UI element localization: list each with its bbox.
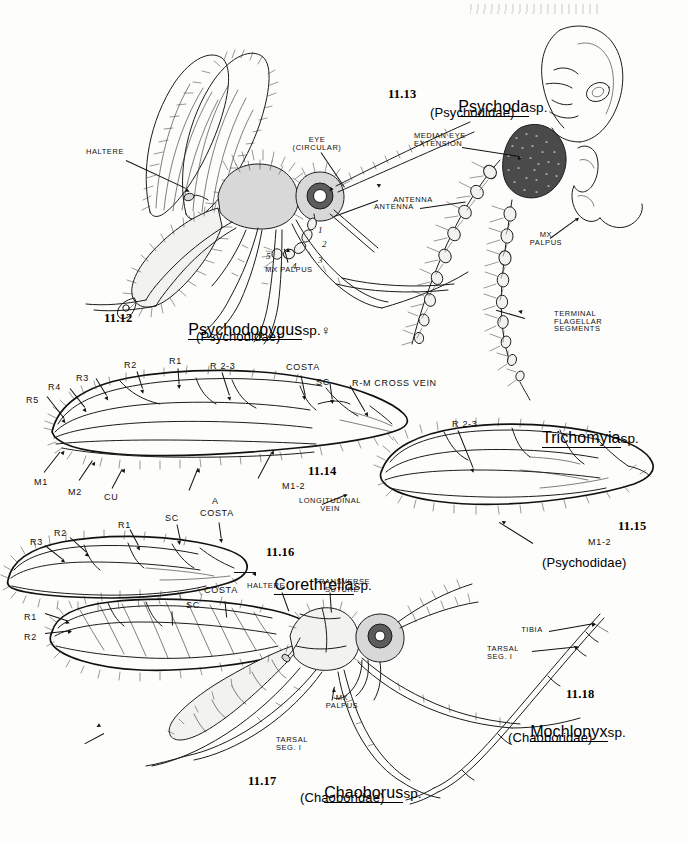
callout-longitudinal-vein: LONGITUDINAL VEIN <box>288 497 372 512</box>
vein-label-m1-2: M1-2 <box>282 482 305 491</box>
vein-label-r2-b: R2 <box>54 529 67 538</box>
callout-transverse-suture: TRANSVERSE SUTURE <box>300 578 384 593</box>
arrow-mx-palpus-3 <box>332 688 336 692</box>
vein-label-sc: SC <box>316 378 330 387</box>
genus-name-trichomyia: Trichomyia <box>542 429 621 448</box>
callout-tarsal-seg-1-b: TARSAL SEG. I <box>487 645 537 660</box>
sp-label-11-18: sp. <box>608 725 626 740</box>
figure-number-11-12: 11.12 <box>104 312 132 325</box>
antenna-beads-left <box>413 163 499 345</box>
palpus-segment-1: 1 <box>318 226 323 235</box>
vein-label-costa-b: COSTA <box>200 509 234 518</box>
figure-number-11-17: 11.17 <box>248 775 276 788</box>
palpus-segment-2: 2 <box>322 240 327 249</box>
vein-label-r2-c: R2 <box>24 633 37 642</box>
family-name-11-18: (Chaoboridae) <box>508 731 592 744</box>
callout-mx-palpus-3: MX PALPUS <box>318 694 366 709</box>
sp-label-11-15: sp. <box>621 431 639 446</box>
callout-haltere: HALTERE <box>74 148 136 156</box>
arrow-costa <box>302 396 307 401</box>
illustration-plate: HALTERE EYE (CIRCULAR) ANTENNA MX PALPUS… <box>0 0 689 842</box>
vein-label-rm-cross-vein: R-M CROSS VEIN <box>352 379 437 388</box>
callout-eye-circular: EYE (CIRCULAR) <box>282 136 352 151</box>
callout-antenna-2: ANTENNA <box>374 203 426 211</box>
vein-label-r1-b: R1 <box>118 521 131 530</box>
callout-median-eye-extension: MEDIAN EYE EXTENSION <box>414 132 504 147</box>
vein-label-a: A <box>212 497 219 506</box>
figure-number-11-13: 11.13 <box>388 88 416 101</box>
arrow-sc <box>330 400 335 405</box>
arrow-tarsal-2 <box>575 646 579 650</box>
vein-label-r2: R2 <box>124 361 137 370</box>
vein-label-r2-3-b: R 2-3 <box>452 420 478 429</box>
callout-tarsal-seg-1: TARSAL SEG. I <box>276 736 336 751</box>
sex-symbol-11-12: ♀ <box>321 323 331 338</box>
callout-haltere-2: HALTERE <box>242 582 290 590</box>
figure-number-11-16: 11.16 <box>266 546 294 559</box>
sp-label-11-13: sp. <box>529 100 547 115</box>
vein-label-cu: CU <box>104 493 118 502</box>
callout-tibia: TIBIA <box>512 626 552 634</box>
arrow-r1 <box>177 385 181 389</box>
vein-label-r1-c: R1 <box>24 613 37 622</box>
callout-terminal-flagellar-segments: TERMINAL FLAGELLAR SEGMENTS <box>554 310 634 333</box>
family-name-11-12: (Psychodidae) <box>196 330 280 343</box>
vein-label-r3-b: R3 <box>30 538 43 547</box>
family-name-11-13: (Psychodidae) <box>430 106 514 119</box>
arrow-costa-b <box>219 539 224 544</box>
figure-title-11-15: Trichomyiasp. <box>524 414 639 463</box>
arrow-sc-b <box>177 541 182 546</box>
vein-label-m2: M2 <box>68 488 82 497</box>
vein-label-m1-2-b: M1-2 <box>588 538 611 547</box>
figure-11-17-artwork <box>45 580 580 798</box>
palpus-segment-4: 4 <box>292 262 297 271</box>
vein-label-r3: R3 <box>76 374 89 383</box>
vein-label-r2-3: R 2-3 <box>210 362 236 371</box>
figure-number-11-14: 11.14 <box>308 465 336 478</box>
vein-label-sc-b: SC <box>165 514 179 523</box>
callout-mx-palpus-2: MX PALPUS <box>520 231 572 246</box>
sp-label-11-17: sp. <box>403 786 421 801</box>
vein-label-r1: R1 <box>169 357 182 366</box>
family-name-11-15: (Psychodidae) <box>542 556 626 569</box>
vein-label-costa-c: COSTA <box>204 586 238 595</box>
figure-number-11-18: 11.18 <box>566 688 594 701</box>
arrow-r2-c <box>68 630 72 634</box>
leader-corethrella <box>234 572 256 573</box>
vein-label-costa: COSTA <box>286 363 320 372</box>
sp-label-11-12: sp. <box>302 323 320 338</box>
vein-label-sc-c: SC <box>186 601 200 610</box>
palpus-segment-3: 3 <box>318 256 323 265</box>
family-name-11-17: (Chaoboridae) <box>300 791 384 804</box>
arrow-median-eye <box>518 156 523 161</box>
arrow-tibia <box>592 622 597 627</box>
callout-mx-palpus: MX PALPUS <box>254 266 324 274</box>
figure-number-11-15: 11.15 <box>618 520 646 533</box>
palpus-segment-5: 5 <box>266 252 271 261</box>
vein-label-r4: R4 <box>48 383 61 392</box>
vein-label-m1: M1 <box>34 478 48 487</box>
vein-label-r5: R5 <box>26 396 39 405</box>
arrow-mx-palpus <box>286 248 290 252</box>
